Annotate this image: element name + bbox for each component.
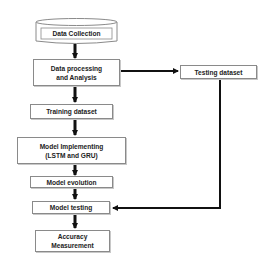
- node-model-evolution: Model evolution: [30, 176, 113, 188]
- node-label-line1: Data processing: [51, 64, 102, 73]
- node-model-implementing: Model Implementing (LSTM and GRU): [17, 137, 126, 164]
- node-label: Training dataset: [46, 107, 97, 116]
- node-label-line1: Model Implementing: [40, 142, 104, 151]
- node-label: Model testing: [50, 203, 93, 212]
- node-testing-dataset: Testing dataset: [180, 65, 257, 79]
- node-label-line2: and Analysis: [56, 73, 96, 82]
- node-data-processing: Data processing and Analysis: [33, 59, 120, 86]
- node-label-line2: Measurement: [51, 241, 94, 250]
- node-label: Data Collection: [53, 29, 101, 38]
- node-label: Model evolution: [46, 178, 96, 187]
- node-training-dataset: Training dataset: [30, 104, 113, 119]
- node-model-testing: Model testing: [32, 201, 110, 214]
- node-label-line2: (LSTM and GRU): [45, 151, 97, 160]
- connectors-layer: [0, 0, 267, 265]
- node-label-line1: Accuracy: [58, 232, 88, 241]
- node-accuracy-measurement: Accuracy Measurement: [35, 230, 110, 252]
- node-data-collection: Data Collection: [41, 28, 112, 39]
- arrow-testing-dataset-to-model-testing: [113, 79, 220, 208]
- node-label: Testing dataset: [195, 68, 243, 77]
